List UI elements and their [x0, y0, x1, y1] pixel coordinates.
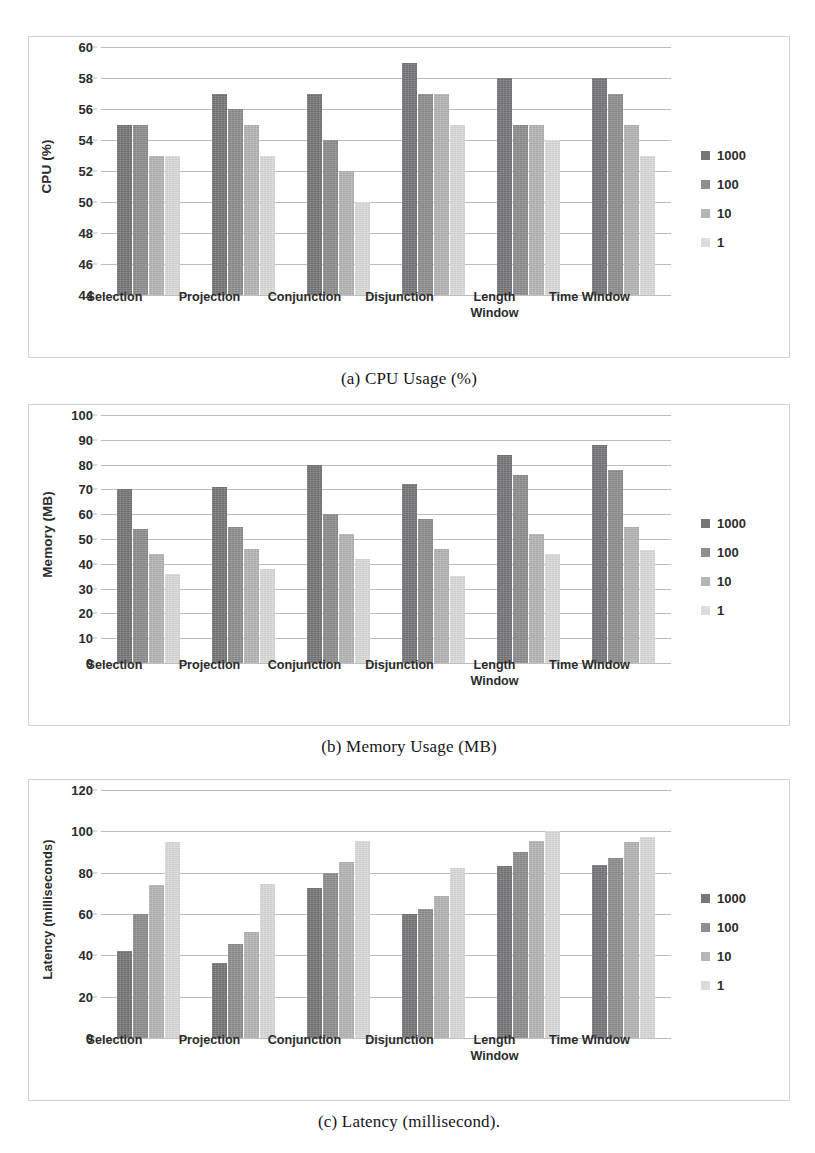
bar: [339, 862, 354, 1038]
y-axis-title-cpu: CPU (%): [35, 37, 59, 295]
legend-label: 100: [717, 920, 739, 935]
legend-swatch-1000-icon: [701, 519, 710, 528]
legend-item: 1: [701, 596, 775, 625]
cropped-header-text: [150, 0, 650, 7]
bar: [592, 78, 607, 295]
legend-swatch-100-icon: [701, 548, 710, 557]
y-axis-tick-mark: [93, 539, 97, 540]
y-axis-tick-label: 48: [79, 226, 93, 241]
bar: [545, 140, 560, 295]
bar: [323, 140, 338, 295]
bar: [592, 445, 607, 663]
y-axis-tick-mark: [93, 872, 97, 873]
legend-cpu: 1000100101: [701, 141, 775, 257]
bar: [513, 475, 528, 663]
bar-group: [481, 790, 576, 1038]
bar: [529, 534, 544, 663]
y-axis-tick-label: 80: [79, 457, 93, 472]
y-axis-tick-mark: [93, 996, 97, 997]
chart-frame-cpu: CPU (%) 444648505254565860 SelectionProj…: [28, 36, 790, 358]
figure-page: CPU (%) 444648505254565860 SelectionProj…: [0, 0, 815, 1153]
bar: [149, 156, 164, 296]
bar-group: [291, 47, 386, 295]
chart-frame-latency: Latency (milliseconds) 020406080100120 S…: [28, 779, 790, 1101]
plot-area-memory: [101, 415, 671, 663]
bar: [434, 94, 449, 296]
bar: [117, 125, 132, 296]
y-axis-tick-label: 60: [79, 907, 93, 922]
bar: [339, 534, 354, 663]
legend-label: 10: [717, 949, 731, 964]
bar: [513, 852, 528, 1038]
legend-swatch-1-icon: [701, 238, 710, 247]
bar: [608, 470, 623, 663]
y-axis-tick-mark: [93, 613, 97, 614]
x-axis-category-label: Projection: [162, 289, 257, 321]
legend-swatch-1000-icon: [701, 894, 710, 903]
y-axis-tick-mark: [93, 588, 97, 589]
y-axis-tick-label: 10: [79, 631, 93, 646]
bar-group: [196, 790, 291, 1038]
bar: [640, 837, 655, 1039]
bar: [434, 549, 449, 663]
y-axis-tick-mark: [93, 140, 97, 141]
bar: [402, 63, 417, 296]
bar: [497, 78, 512, 295]
y-axis-tick-mark: [93, 955, 97, 956]
bar: [450, 868, 465, 1039]
bar: [133, 125, 148, 296]
y-axis-tick-mark: [93, 47, 97, 48]
y-axis-tick-label: 56: [79, 102, 93, 117]
bar: [624, 125, 639, 296]
bar: [260, 884, 275, 1038]
bar: [418, 94, 433, 296]
legend-label: 1000: [717, 516, 746, 531]
bar-group: [481, 47, 576, 295]
bar: [244, 125, 259, 296]
legend-swatch-100-icon: [701, 180, 710, 189]
y-axis-tick-label: 100: [71, 408, 93, 423]
y-axis-tick-label: 70: [79, 482, 93, 497]
chart-frame-memory: Memory (MB) 0102030405060708090100 Selec…: [28, 404, 790, 726]
bar: [418, 519, 433, 663]
legend-swatch-1-icon: [701, 981, 710, 990]
legend-swatch-10-icon: [701, 577, 710, 586]
bar-group: [576, 415, 671, 663]
bar: [450, 125, 465, 296]
bar: [355, 202, 370, 295]
x-axis-category-label: Projection: [162, 1032, 257, 1064]
bar-group: [101, 415, 196, 663]
y-axis-title-latency: Latency (milliseconds): [35, 780, 59, 1038]
y-axis-tick-mark: [93, 563, 97, 564]
legend-item: 10: [701, 942, 775, 971]
bar-groups-cpu: [101, 47, 671, 295]
x-axis-category-label: Projection: [162, 657, 257, 689]
bar: [307, 888, 322, 1038]
bar: [339, 171, 354, 295]
x-axis-category-label: Length Window: [447, 289, 542, 321]
x-axis-category-label: Selection: [67, 1032, 162, 1064]
y-axis-tick-mark: [93, 831, 97, 832]
bar: [323, 514, 338, 663]
bar: [513, 125, 528, 296]
plot-area-latency: [101, 790, 671, 1038]
y-axis-tick-label: 54: [79, 133, 93, 148]
bar: [529, 125, 544, 296]
figure-caption-a: (a) CPU Usage (%): [28, 369, 790, 389]
bar: [592, 865, 607, 1038]
x-axis-labels-memory: SelectionProjectionConjunctionDisjunctio…: [67, 657, 637, 689]
bar-group: [291, 790, 386, 1038]
legend-item: 1: [701, 228, 775, 257]
x-axis-category-label: Selection: [67, 289, 162, 321]
bar: [260, 569, 275, 663]
bar: [355, 841, 370, 1038]
x-axis-labels-latency: SelectionProjectionConjunctionDisjunctio…: [67, 1032, 637, 1064]
bar: [307, 465, 322, 663]
x-axis-category-label: Disjunction: [352, 657, 447, 689]
bar-group: [576, 790, 671, 1038]
bar: [165, 574, 180, 663]
x-axis-category-label: Disjunction: [352, 1032, 447, 1064]
bar: [244, 932, 259, 1038]
y-axis-tick-mark: [93, 109, 97, 110]
y-axis-tick-mark: [93, 489, 97, 490]
